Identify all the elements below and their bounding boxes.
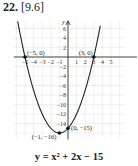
y-tick-label: −4 [60, 73, 66, 79]
data-point [66, 126, 70, 130]
x-tick-label: 5 [110, 59, 113, 65]
y-tick-label: −6 [60, 83, 66, 89]
equation-label: y = x² + 2x − 15 [0, 151, 138, 162]
y-tick-label: 2 [63, 45, 66, 51]
x-tick-label: −2 [48, 59, 54, 65]
point-label: (−5, 0) [27, 49, 45, 57]
y-tick-label: 6 [63, 26, 66, 32]
y-tick-label: 4 [63, 35, 66, 41]
point-label: (3, 0) [79, 49, 93, 57]
x-tick-label: 2 [84, 59, 87, 65]
y-tick-label: −14 [57, 121, 66, 127]
point-label: (−1, −16) [32, 133, 57, 141]
x-tick-label: 1 [75, 59, 78, 65]
y-tick-label: −2 [60, 64, 66, 70]
parabola-graph: y−5−4−3−2−112345642−2−4−6−8−10−12−14(−5,… [0, 0, 138, 166]
y-tick-label: −12 [57, 111, 66, 117]
x-tick-label: 4 [101, 59, 104, 65]
y-tick-label: −10 [57, 102, 66, 108]
x-tick-label: −4 [30, 59, 36, 65]
x-tick-label: −5 [22, 59, 28, 65]
y-tick-label: −8 [60, 92, 66, 98]
data-point [58, 131, 62, 135]
point-label: (0, −15) [71, 124, 92, 132]
x-tick-label: −3 [39, 59, 45, 65]
